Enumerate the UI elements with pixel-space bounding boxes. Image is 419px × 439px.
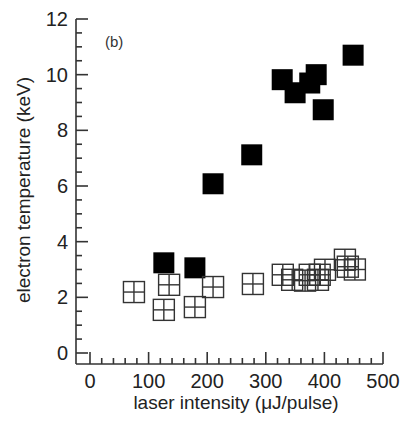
filled-square-marker [343,45,364,66]
open-square-marker [184,297,205,318]
open-square-marker [272,264,293,285]
scatter-chart: 0246810120100200300400500 (b) laser inte… [0,0,419,439]
x-tick-label: 200 [191,370,224,392]
open-square-marker [242,273,263,294]
filled-square-marker [313,99,334,120]
open-square-marker [123,282,144,303]
x-axis-title: laser intensity (μJ/pulse) [133,392,338,413]
y-tick-label: 10 [46,64,68,86]
filled-square-marker [184,257,205,278]
filled-square-marker [241,144,262,165]
x-tick-label: 0 [84,370,95,392]
filled-square-marker [203,173,224,194]
y-tick-label: 6 [57,175,68,197]
open-square-marker [159,274,180,295]
data-points [123,45,365,321]
y-tick-label: 4 [57,231,68,253]
x-tick-label: 300 [249,370,282,392]
open-square-marker [309,264,330,285]
y-tick-label: 0 [57,342,68,364]
x-tick-label: 500 [366,370,399,392]
panel-label: (b) [105,33,123,50]
y-axis-title: electron temperature (keV) [13,77,34,303]
y-tick-label: 2 [57,286,68,308]
open-square-marker [153,299,174,320]
x-tick-label: 100 [132,370,165,392]
open-square-marker [203,277,224,298]
filled-square-marker [153,252,174,273]
series-hot-component [153,45,363,279]
filled-square-marker [306,64,327,85]
open-square-marker [295,270,316,291]
y-tick-label: 8 [57,119,68,141]
y-tick-label: 12 [46,8,68,30]
x-tick-label: 400 [308,370,341,392]
